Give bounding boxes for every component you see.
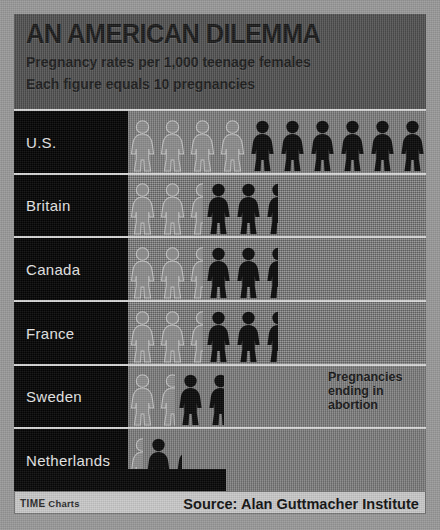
infographic-root: AN AMERICAN DILEMMA Pregnancy rates per … — [0, 0, 440, 530]
pregnancy-figure-icon — [338, 119, 367, 173]
abortion-figure-icon — [188, 310, 203, 364]
table-row: France — [14, 300, 426, 364]
pictogram-figure-group — [128, 175, 279, 237]
pregnancy-figure-icon — [308, 119, 337, 173]
country-label-cell: U.S. — [14, 111, 128, 173]
pregnancy-figure-icon — [204, 182, 233, 236]
pictogram-bar-cell — [128, 111, 426, 173]
annotation-line: abortion — [328, 398, 420, 412]
abortion-figure-icon — [128, 310, 157, 364]
chart-frame: AN AMERICAN DILEMMA Pregnancy rates per … — [14, 14, 426, 514]
table-row: Canada — [14, 236, 426, 300]
pregnancy-figure-icon — [368, 119, 397, 173]
pregnancy-figure-icon — [264, 182, 279, 236]
abortion-figure-icon — [158, 246, 187, 300]
country-label: U.S. — [26, 133, 56, 150]
chart-header: AN AMERICAN DILEMMA Pregnancy rates per … — [14, 14, 426, 109]
country-label: Netherlands — [26, 452, 110, 469]
country-label: Sweden — [26, 388, 82, 405]
pregnancy-figure-icon — [264, 246, 279, 300]
pictogram-figure-group — [128, 238, 279, 300]
pictogram-figure-group — [128, 111, 426, 173]
subtitle-legend: Each figure equals 10 pregnancies — [26, 76, 410, 92]
abortion-figure-icon — [188, 119, 217, 173]
abortion-figure-icon — [188, 246, 203, 300]
country-label-cell: France — [14, 302, 128, 364]
abortion-figure-icon — [128, 373, 157, 427]
pictogram-bar-cell: Pregnanciesending inabortion — [128, 366, 426, 428]
abortion-figure-icon — [128, 119, 157, 173]
source-credit: Source: Alan Guttmacher Institute — [183, 494, 419, 511]
footer-black-pad — [14, 469, 226, 491]
country-label: Britain — [26, 197, 71, 214]
pregnancy-figure-icon — [264, 310, 279, 364]
chart-footer: TIME Charts Source: Alan Guttmacher Inst… — [14, 491, 426, 514]
pregnancy-figure-icon — [248, 119, 277, 173]
annotation-line: ending in — [328, 384, 420, 398]
time-charts-logo: TIME Charts — [20, 497, 80, 508]
pregnancy-figure-icon — [234, 310, 263, 364]
country-label-cell: Canada — [14, 238, 128, 300]
pregnancy-figure-icon — [176, 373, 205, 427]
country-label-cell: Sweden — [14, 366, 128, 428]
abortion-figure-icon — [128, 182, 157, 236]
time-brand: TIME — [20, 497, 46, 508]
pregnancy-figure-icon — [234, 246, 263, 300]
country-label-cell: Britain — [14, 175, 128, 237]
pictogram-figure-group — [128, 302, 279, 364]
pregnancy-figure-icon — [204, 310, 233, 364]
abortion-figure-icon — [158, 310, 187, 364]
pictogram-bar-cell — [128, 302, 426, 364]
abortion-figure-icon — [158, 119, 187, 173]
pictogram-figure-group — [128, 366, 225, 428]
annotation-line: Pregnancies — [328, 370, 420, 384]
pregnancy-figure-icon — [398, 119, 426, 173]
table-row: SwedenPregnanciesending inabortion — [14, 364, 426, 428]
abortion-figure-icon — [158, 373, 175, 427]
charts-suffix: Charts — [46, 497, 80, 508]
page-title: AN AMERICAN DILEMMA — [26, 19, 393, 50]
pictogram-bar-cell — [128, 175, 426, 237]
pregnancy-figure-icon — [278, 119, 307, 173]
abortion-figure-icon — [158, 182, 187, 236]
pregnancy-figure-icon — [206, 373, 223, 427]
abortion-figure-icon — [218, 119, 247, 173]
country-label: France — [26, 324, 75, 341]
abortion-annotation: Pregnanciesending inabortion — [328, 370, 420, 412]
pregnancy-figure-icon — [204, 246, 233, 300]
country-label: Canada — [26, 261, 80, 278]
pregnancy-figure-icon — [234, 182, 263, 236]
abortion-figure-icon — [128, 246, 157, 300]
pictogram-bar-cell — [128, 238, 426, 300]
subtitle-rate: Pregnancy rates per 1,000 teenage female… — [26, 54, 410, 70]
chart-rows: U.S.BritainCanadaFranceSwedenPregnancies… — [14, 109, 426, 491]
table-row: Britain — [14, 173, 426, 237]
abortion-figure-icon — [188, 182, 203, 236]
table-row: U.S. — [14, 109, 426, 173]
